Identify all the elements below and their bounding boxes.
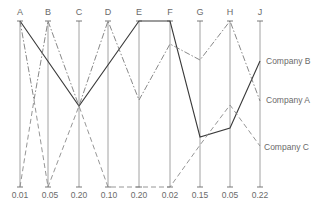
axis-label-f: F (167, 7, 173, 17)
axes: A 0.01 B 0.05 C 0.20 D 0.10 (12, 7, 269, 200)
axis-bottom-value-b: 0.05 (42, 190, 59, 200)
axis-label-e: E (136, 7, 142, 17)
axis-bottom-value-h: 0.05 (222, 190, 239, 200)
axis-bottom-value-e: 0.20 (131, 190, 148, 200)
axis-label-d: D (105, 7, 112, 17)
axis-f: F 0.02 (162, 7, 179, 200)
legend-label-company-c: Company C (264, 142, 309, 152)
axis-g: G 0.15 (192, 7, 209, 200)
axis-bottom-value-d: 0.10 (101, 190, 118, 200)
axis-label-a: A (17, 7, 23, 17)
axis-label-b: B (45, 7, 51, 17)
axis-label-g: G (196, 7, 203, 17)
axis-bottom-value-c: 0.20 (71, 190, 88, 200)
axis-bottom-value-f: 0.02 (162, 190, 179, 200)
legend-label-company-b: Company B (266, 56, 311, 66)
series-company-c (20, 100, 260, 187)
series-company-a (20, 21, 260, 137)
axis-label-h: H (227, 7, 234, 17)
axis-bottom-value-j: 0.22 (252, 190, 269, 200)
axis-b: B 0.05 (42, 7, 59, 200)
axis-label-j: J (258, 7, 263, 17)
axis-label-c: C (76, 7, 83, 17)
series-company-b (20, 21, 260, 106)
parallel-coordinates-chart: A 0.01 B 0.05 C 0.20 D 0.10 (0, 0, 316, 213)
axis-c: C 0.20 (71, 7, 88, 200)
axis-e: E 0.20 (131, 7, 148, 200)
axis-a: A 0.01 (12, 7, 29, 200)
axis-bottom-value-a: 0.01 (12, 190, 29, 200)
legend-label-company-a: Company A (266, 95, 310, 105)
axis-bottom-value-g: 0.15 (192, 190, 209, 200)
